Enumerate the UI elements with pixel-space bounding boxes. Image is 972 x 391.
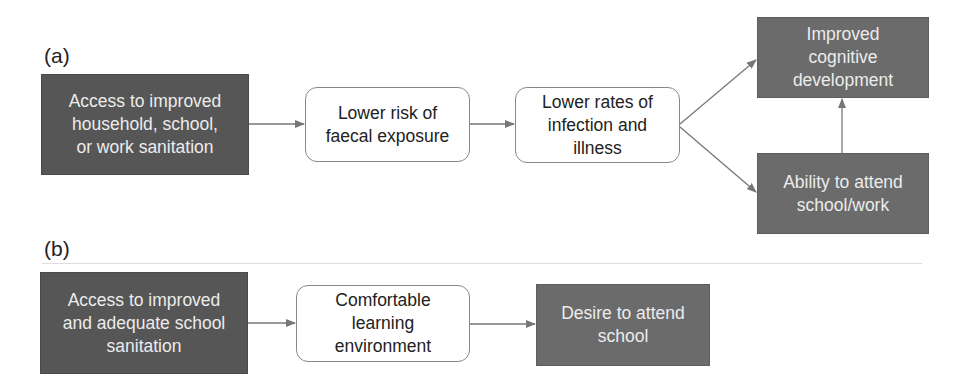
arrows-layer [0, 0, 972, 391]
arrow-a3-a4 [680, 60, 756, 124]
arrow-a3-a5 [680, 127, 756, 192]
